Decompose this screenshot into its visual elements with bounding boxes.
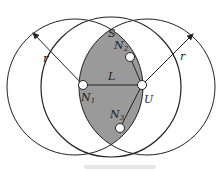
intersection-region-s (79, 19, 215, 155)
node-n3 (116, 124, 125, 133)
node-n1 (79, 81, 88, 90)
overlap-diagram: S r r L N1 N2 N3 U (0, 0, 222, 172)
label-l: L (107, 70, 115, 83)
node-u (138, 81, 147, 90)
node-n2 (126, 53, 135, 62)
label-u: U (144, 93, 154, 106)
label-r-right: r (180, 50, 186, 63)
label-n2: N2 (113, 39, 129, 53)
label-r-left: r (43, 52, 49, 65)
radius-arrow-right (142, 34, 193, 85)
figure-caption (84, 165, 156, 169)
